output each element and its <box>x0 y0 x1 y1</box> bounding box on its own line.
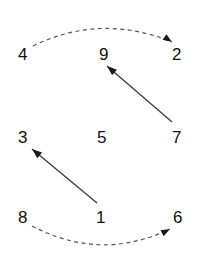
arrowhead-4-to-2 <box>163 34 174 45</box>
dashed-arc-4-to-2 <box>33 28 172 46</box>
diagram-canvas: 4 9 2 3 5 7 8 1 6 <box>0 0 198 263</box>
dashed-arc-8-to-6 <box>32 226 170 245</box>
node-label-2: 2 <box>172 46 181 63</box>
arrowhead-8-to-6 <box>160 226 171 236</box>
node-label-1: 1 <box>96 209 105 226</box>
arrow-group-4-to-2 <box>33 28 174 46</box>
node-label-8: 8 <box>18 209 27 226</box>
node-label-9: 9 <box>99 46 108 63</box>
arrow-group-8-to-6 <box>32 226 172 245</box>
solid-line-1-to-3 <box>32 149 97 203</box>
arrow-group-1-to-3 <box>30 146 97 203</box>
node-label-3: 3 <box>18 129 27 146</box>
node-label-4: 4 <box>18 46 27 63</box>
node-label-6: 6 <box>173 209 182 226</box>
solid-line-7-to-9 <box>107 66 172 122</box>
arrow-group-7-to-9 <box>105 63 172 122</box>
node-label-5: 5 <box>97 129 106 146</box>
node-label-7: 7 <box>172 129 181 146</box>
